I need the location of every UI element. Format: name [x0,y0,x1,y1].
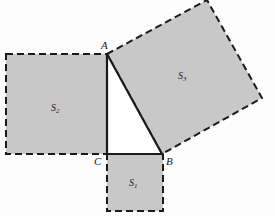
vertex-label-a: A [100,39,108,51]
vertex-label-c: C [94,155,102,167]
pythagorean-diagram: A B C S2 S3 S1 [0,0,275,216]
vertex-label-b: B [166,155,173,167]
square-s2 [6,54,107,154]
diagram-canvas: A B C S2 S3 S1 [0,0,275,216]
